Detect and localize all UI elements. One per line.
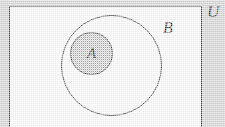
venn-diagram-figure: A B U [0, 0, 225, 127]
set-a-circle: A [70, 32, 113, 75]
universal-set-label: U [207, 3, 219, 20]
set-b-label: B [163, 20, 173, 36]
set-a-label: A [87, 46, 96, 61]
